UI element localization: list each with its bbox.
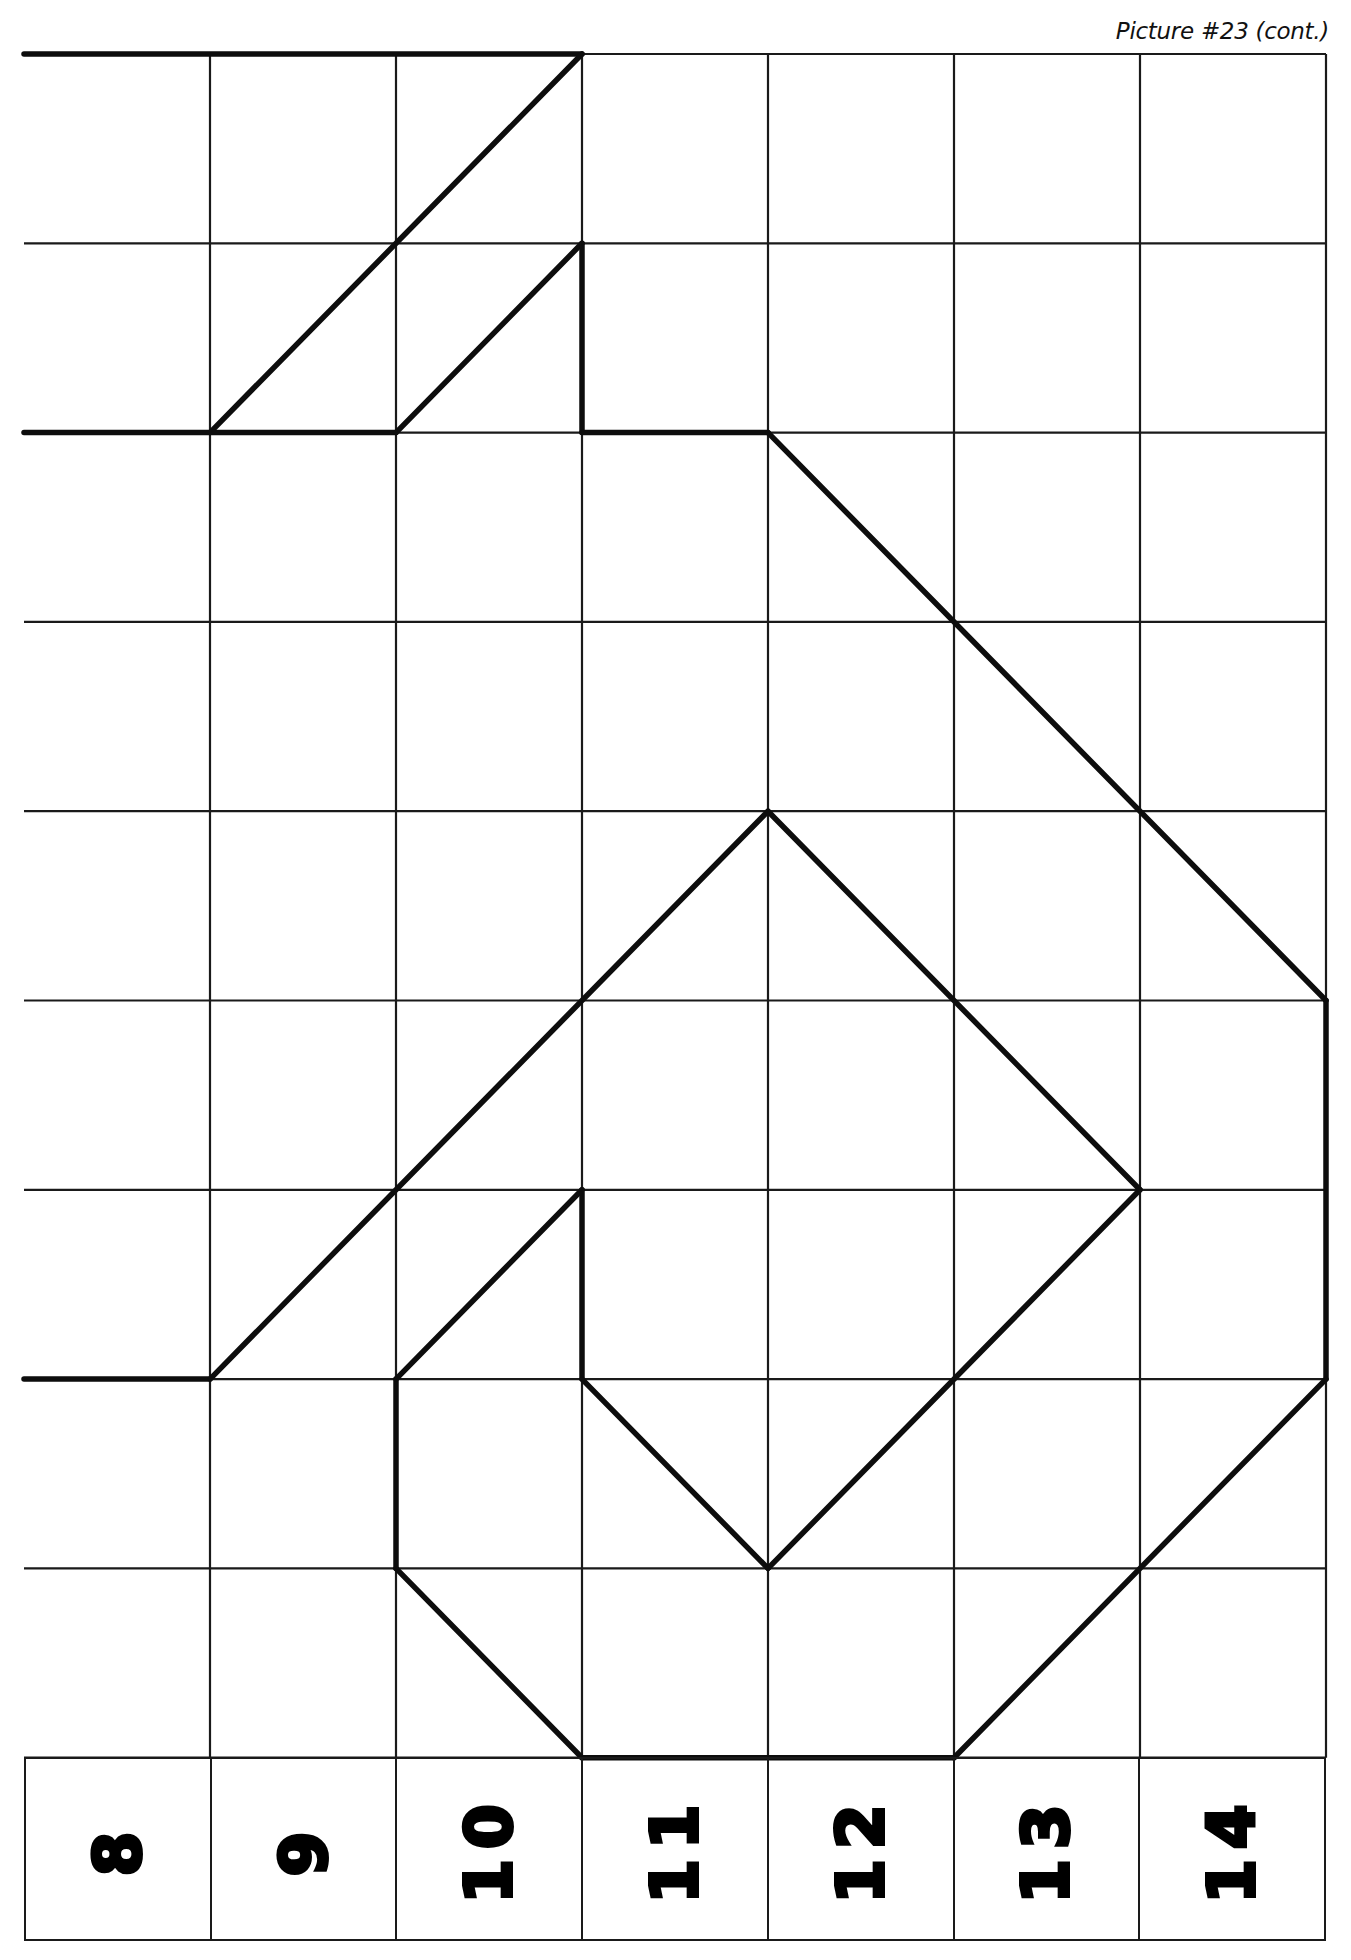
column-label: 11: [643, 1794, 707, 1903]
picture-segment: [768, 433, 1326, 1001]
picture-segment: [396, 243, 582, 432]
picture-segment: [210, 811, 768, 1379]
column-label: 12: [829, 1794, 893, 1903]
column-label: 14: [1200, 1794, 1264, 1903]
drawing-grid: [0, 0, 1351, 1960]
column-label-cell: 9: [212, 1759, 398, 1939]
picture-segment: [582, 1379, 768, 1568]
column-label: 8: [86, 1822, 150, 1877]
column-label-row: 891011121314: [24, 1757, 1326, 1941]
column-label-cell: 11: [583, 1759, 769, 1939]
column-label-cell: 10: [397, 1759, 583, 1939]
column-label-cell: 13: [955, 1759, 1141, 1939]
picture-segment: [396, 1190, 582, 1379]
column-label-cell: 12: [769, 1759, 955, 1939]
column-label-cell: 8: [26, 1759, 212, 1939]
picture-lines: [24, 54, 1326, 1758]
column-label: 10: [457, 1794, 521, 1903]
column-label: 9: [272, 1822, 336, 1877]
picture-segment: [396, 1568, 582, 1757]
column-label: 13: [1014, 1794, 1078, 1903]
column-label-cell: 14: [1140, 1759, 1324, 1939]
